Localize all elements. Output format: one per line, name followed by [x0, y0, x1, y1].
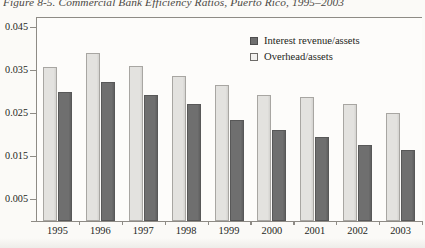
chart-legend: Interest revenue/assets Overhead/assets: [250, 34, 360, 66]
bar: [257, 95, 271, 221]
y-axis-label: 0.035: [0, 64, 28, 75]
x-axis-label: 2002: [336, 225, 380, 236]
bar: [129, 66, 143, 221]
bar: [187, 104, 201, 221]
scanned-page: Figure 8-5. Commercial Bank Efficiency R…: [0, 0, 425, 248]
bar: [300, 97, 314, 221]
bar: [343, 104, 357, 221]
legend-swatch-interest-revenue: [250, 37, 258, 45]
x-axis-label: 1997: [121, 225, 165, 236]
x-axis-label: 1998: [164, 225, 208, 236]
bar: [58, 92, 72, 221]
bar: [401, 150, 415, 221]
y-axis-tick: [30, 156, 36, 157]
y-axis-tick: [30, 70, 36, 71]
bar: [215, 85, 229, 221]
legend-item-interest-revenue: Interest revenue/assets: [250, 34, 360, 47]
bar: [230, 120, 244, 221]
x-axis-label: 1999: [207, 225, 251, 236]
x-axis-label: 2000: [250, 225, 294, 236]
y-axis-label: 0.045: [0, 21, 28, 32]
bar: [358, 145, 372, 221]
bar: [144, 95, 158, 221]
legend-item-overhead: Overhead/assets: [250, 50, 360, 63]
legend-swatch-overhead: [250, 53, 258, 61]
bar: [101, 82, 115, 221]
figure-caption: Figure 8-5. Commercial Bank Efficiency R…: [3, 0, 423, 9]
y-axis-tick: [30, 27, 36, 28]
y-axis-tick: [30, 113, 36, 114]
bar: [386, 113, 400, 221]
bar: [272, 130, 286, 221]
bar: [315, 137, 329, 221]
bar: [172, 76, 186, 221]
y-axis-tick: [30, 199, 36, 200]
legend-label-interest-revenue: Interest revenue/assets: [264, 35, 360, 46]
bar: [43, 67, 57, 221]
x-axis-label: 2001: [293, 225, 337, 236]
x-axis-label: 2003: [379, 225, 423, 236]
bar-chart: 0.0050.0150.0250.0350.045 19951996199719…: [0, 10, 425, 248]
bar: [86, 53, 100, 221]
y-axis-label: 0.025: [0, 107, 28, 118]
x-axis-line: [31, 221, 423, 222]
legend-label-overhead: Overhead/assets: [264, 51, 333, 62]
y-axis-label: 0.015: [0, 150, 28, 161]
y-axis-label: 0.005: [0, 193, 28, 204]
x-axis-label: 1996: [78, 225, 122, 236]
x-axis-label: 1995: [35, 225, 79, 236]
